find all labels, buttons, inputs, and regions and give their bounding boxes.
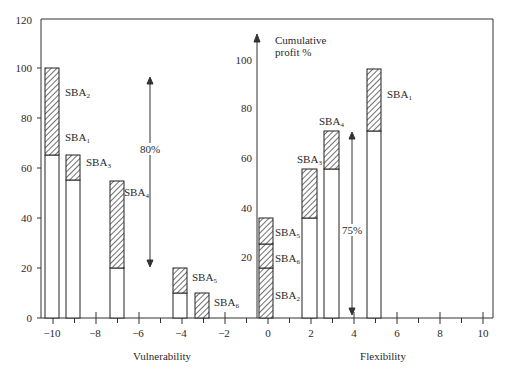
- y-tick-label: 40: [21, 212, 33, 224]
- bar-labels-left: SBA2 SBA1 SBA3 SBA4 SBA5 SBA6: [65, 86, 239, 310]
- x-tick-label: 4: [351, 327, 357, 339]
- y-tick-label: 120: [16, 14, 33, 26]
- annotation-80-label: 80%: [140, 143, 160, 155]
- x-tick-label: −2: [218, 327, 230, 339]
- annotation-80-arrow: [147, 77, 153, 267]
- x-tick-label: 0: [265, 327, 271, 339]
- x-axis-labels: −10 −8 −6 −4 −2 0 2 4 6 8 10: [43, 327, 489, 339]
- bar-segment-hatched: [195, 293, 209, 318]
- bar-segment-hatched: [110, 181, 124, 268]
- x-tick-label: 2: [308, 327, 314, 339]
- y-tick-label: 100: [16, 62, 33, 74]
- x-tick-label: −8: [89, 327, 101, 339]
- chart: 0 20 40 60 80 100 120 −10 −8 −6 −4: [0, 0, 507, 379]
- x-tick-label: −10: [43, 327, 61, 339]
- x-tick-label: 10: [478, 327, 490, 339]
- y-tick-label: 80: [21, 112, 33, 124]
- bar-segment: [45, 155, 59, 318]
- bars-flexibility: [259, 69, 381, 318]
- bar-label-sba5: SBA5: [275, 226, 300, 240]
- y-tick-label: 20: [21, 262, 33, 274]
- bar-segment: [110, 268, 124, 318]
- bar-label-sba2: SBA2: [275, 289, 300, 303]
- x-tick-label: 8: [437, 327, 443, 339]
- y-axis-left: [37, 68, 41, 318]
- bar-label-sba5: SBA5: [192, 271, 217, 285]
- bar-label-sba1: SBA1: [65, 131, 90, 145]
- arrow-down-icon: [147, 260, 153, 267]
- bar-label-sba2: SBA2: [65, 86, 90, 100]
- arrow-up-icon: [254, 34, 260, 42]
- inner-axis-title: profit %: [275, 46, 311, 58]
- inner-axis-title: Cumulative: [275, 34, 326, 46]
- bar-label-sba4: SBA4: [124, 186, 149, 200]
- x-tick-label: −4: [175, 327, 187, 339]
- x-axis-title-flexibility: Flexibility: [360, 350, 406, 362]
- y-inner-tick-label: 20: [241, 251, 253, 263]
- y-tick-label: 0: [27, 312, 33, 324]
- bar-label-sba1: SBA1: [387, 88, 412, 102]
- x-axis-title-vulnerability: Vulnerability: [133, 350, 191, 362]
- bar-labels-right: SBA5 SBA6 SBA2 SBA3 SBA4 SBA1: [275, 88, 412, 303]
- y-tick-label: 60: [21, 162, 33, 174]
- y-inner-tick-label: 60: [241, 152, 253, 164]
- bar-segment-hatched: [45, 68, 59, 155]
- bar-label-sba4: SBA4: [319, 115, 344, 129]
- x-tick-label: −6: [132, 327, 144, 339]
- bar-segment: [173, 293, 187, 318]
- arrow-up-icon: [147, 77, 153, 84]
- bar-segment-hatched: [324, 131, 339, 169]
- bar-segment-hatched: [259, 218, 273, 244]
- x-tick-label: 6: [394, 327, 400, 339]
- bar-segment: [367, 131, 381, 318]
- bar-segment-hatched: [173, 268, 187, 293]
- y-inner-tick-label: 100: [236, 54, 253, 66]
- bar-segment-hatched: [367, 69, 381, 131]
- bar-label-sba3: SBA3: [297, 153, 322, 167]
- arrow-up-icon: [349, 132, 355, 139]
- bar-label-sba6: SBA6: [214, 296, 239, 310]
- annotation-75-label: 75%: [342, 224, 362, 236]
- bar-segment-hatched: [66, 155, 80, 180]
- y-axis-left-labels: 0 20 40 60 80 100 120: [16, 14, 33, 324]
- bar-segment-hatched: [259, 244, 273, 268]
- bar-label-sba6: SBA6: [275, 252, 300, 266]
- y-inner-tick-label: 80: [241, 102, 253, 114]
- bar-label-sba3: SBA3: [86, 156, 111, 170]
- bar-segment: [324, 169, 339, 318]
- y-inner-tick-label: 40: [241, 202, 253, 214]
- bar-segment-hatched: [302, 169, 317, 218]
- bar-segment: [302, 218, 317, 318]
- bar-segment: [66, 180, 80, 318]
- bar-segment-hatched: [259, 268, 273, 318]
- y-axis-inner-labels: 20 40 60 80 100: [236, 54, 253, 263]
